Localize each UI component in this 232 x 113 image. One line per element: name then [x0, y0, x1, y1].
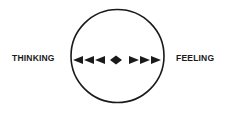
right-arrows-icon: [129, 56, 161, 64]
center-diamond-icon: [110, 56, 122, 65]
spectrum-diagram: [0, 0, 232, 113]
left-arrows-icon: [73, 56, 105, 64]
circle-outline: [71, 10, 164, 103]
